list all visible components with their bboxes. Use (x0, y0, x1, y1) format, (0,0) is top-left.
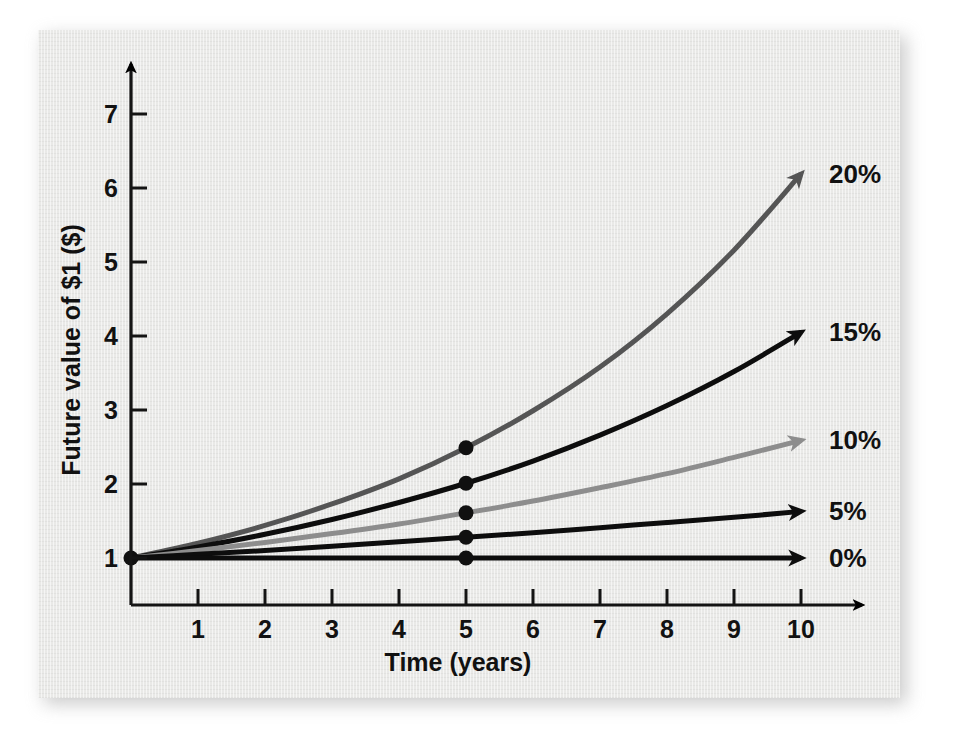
series-layer (131, 174, 801, 558)
series-label-layer: 20%15%10%5%0% (829, 159, 881, 573)
data-point-marker (459, 530, 474, 545)
y-tick-label-3: 3 (104, 396, 118, 424)
y-tick-label-4: 4 (104, 322, 118, 350)
data-point-marker (459, 505, 474, 520)
data-point-marker (459, 551, 474, 566)
series-label-5pct: 5% (829, 496, 867, 526)
series-label-15pct: 15% (829, 317, 881, 347)
x-tick-label-2: 2 (258, 615, 272, 643)
y-axis-title: Future value of $1 ($) (57, 224, 85, 475)
x-tick-label-8: 8 (660, 615, 674, 643)
series-line-20pct (131, 174, 801, 558)
series-label-20pct: 20% (829, 159, 881, 189)
series-label-0pct: 0% (829, 543, 867, 573)
y-tick-label-2: 2 (104, 470, 118, 498)
y-tick-label-7: 7 (104, 100, 118, 128)
y-tick-label-6: 6 (104, 174, 118, 202)
x-tick-label-3: 3 (325, 615, 339, 643)
x-tick-label-7: 7 (593, 615, 607, 643)
y-tick-label-1: 1 (104, 544, 118, 572)
x-tick-label-6: 6 (526, 615, 540, 643)
x-tick-label-1: 1 (191, 615, 205, 643)
y-tick-label-5: 5 (104, 248, 118, 276)
data-point-marker (459, 476, 474, 491)
chart-panel: 123456712345678910 20%15%10%5%0% Time (y… (38, 30, 900, 698)
x-tick-label-4: 4 (392, 615, 406, 643)
x-axis-title: Time (years) (385, 648, 532, 676)
x-tick-label-9: 9 (727, 615, 741, 643)
x-tick-label-10: 10 (787, 615, 815, 643)
line-chart: 123456712345678910 20%15%10%5%0% Time (y… (38, 30, 900, 698)
series-label-10pct: 10% (829, 425, 881, 455)
x-tick-label-5: 5 (459, 615, 473, 643)
figure-root: 123456712345678910 20%15%10%5%0% Time (y… (0, 0, 956, 750)
data-point-marker (459, 440, 474, 455)
